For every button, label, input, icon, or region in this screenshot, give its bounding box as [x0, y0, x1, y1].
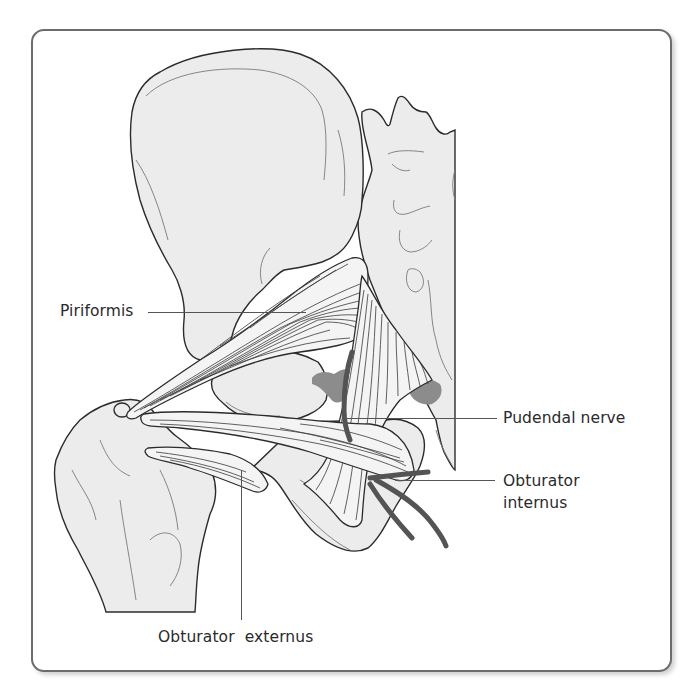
leader-line-piriformis	[148, 312, 306, 313]
label-pudendal-nerve: Pudendal nerve	[503, 409, 626, 428]
label-obturator-externus: Obturator externus	[158, 628, 313, 647]
femur	[55, 399, 216, 612]
label-piriformis: Piriformis	[60, 302, 134, 321]
leader-line-obturator-internus	[395, 480, 495, 481]
leader-line-pudendal-nerve	[344, 418, 497, 419]
hip-anatomy-illustration	[0, 0, 693, 693]
leader-line-obturator-externus	[241, 470, 242, 620]
label-obturator-internus-line2: internus	[503, 494, 567, 513]
label-obturator-internus-line1: Obturator	[503, 472, 580, 491]
